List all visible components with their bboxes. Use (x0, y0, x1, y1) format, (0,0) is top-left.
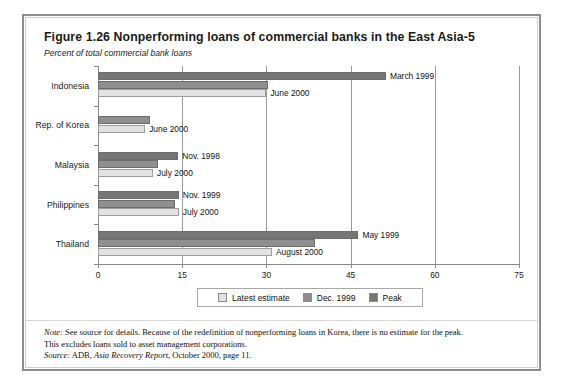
bar-annotation: May 1999 (362, 230, 399, 240)
y-band-tick (94, 185, 99, 186)
bar-rep-of-korea-dec (98, 116, 150, 124)
legend-label-latest: Latest estimate (232, 293, 290, 303)
x-tick-label-30: 30 (262, 270, 271, 280)
chart-legend: Latest estimate Dec. 1999 Peak (197, 288, 423, 307)
legend-item-dec-1999: Dec. 1999 (303, 293, 356, 303)
source-prefix: Source: (44, 350, 70, 360)
legend-label-dec-1999: Dec. 1999 (317, 293, 356, 303)
chart-plot-area: March 1999June 2000June 2000Nov. 1998Jul… (98, 66, 519, 264)
bar-annotation: June 2000 (270, 88, 309, 98)
note-text-1: See source for details. Because of the r… (63, 327, 463, 337)
bar-indonesia-latest (98, 89, 266, 97)
figure-subtitle: Percent of total commercial bank loans (44, 48, 192, 58)
category-label-thailand: Thailand (0, 239, 89, 249)
bar-annotation: March 1999 (390, 71, 434, 81)
bar-annotation: Nov. 1999 (183, 190, 221, 200)
source-text-a: ADB, (70, 350, 94, 360)
bar-annotation: June 2000 (149, 124, 188, 134)
legend-item-latest: Latest estimate (218, 293, 290, 303)
bar-annotation: July 2000 (183, 207, 219, 217)
x-tick-label-15: 15 (178, 270, 187, 280)
bar-indonesia-dec (98, 81, 268, 89)
bar-philippines-dec (98, 200, 175, 208)
x-tick-60 (435, 264, 436, 268)
bar-malaysia-peak (98, 152, 178, 160)
figure-title: Figure 1.26 Nonperforming loans of comme… (44, 30, 475, 44)
bar-thailand-latest (98, 248, 272, 256)
bar-indonesia-peak (98, 72, 386, 80)
legend-swatch-peak-icon (369, 293, 378, 302)
source-line: Source: ADB, Asia Recovery Report, Octob… (44, 350, 514, 362)
y-band-tick (94, 145, 99, 146)
x-tick-75 (519, 264, 520, 268)
note-prefix: Note: (44, 327, 63, 337)
bar-malaysia-latest (98, 169, 153, 177)
source-report-title: Asia Recovery Report (94, 350, 168, 360)
bar-rep-of-korea-latest (98, 125, 145, 133)
x-axis-line (98, 264, 519, 265)
y-band-tick (94, 106, 99, 107)
x-tick-15 (182, 264, 183, 268)
bar-philippines-latest (98, 208, 179, 216)
legend-label-peak: Peak (383, 293, 402, 303)
note-line-2: This excludes loans sold to asset manage… (44, 339, 514, 351)
legend-swatch-dec-1999-icon (303, 293, 312, 302)
category-label-philippines: Philippines (0, 200, 89, 210)
gridline-60 (435, 66, 436, 264)
bar-annotation: July 2000 (157, 168, 193, 178)
x-tick-45 (351, 264, 352, 268)
category-label-malaysia: Malaysia (0, 160, 89, 170)
source-text-b: , October 2000, page 11. (168, 350, 251, 360)
notes-divider (25, 320, 538, 321)
figure-notes: Note: See source for details. Because of… (44, 327, 514, 362)
gridline-75 (519, 66, 520, 264)
bar-thailand-peak (98, 231, 358, 239)
y-band-tick (94, 264, 99, 265)
legend-item-peak: Peak (369, 293, 402, 303)
bar-malaysia-dec (98, 160, 158, 168)
note-line-1: Note: See source for details. Because of… (44, 327, 514, 339)
bar-annotation: August 2000 (276, 247, 323, 257)
y-band-tick (94, 224, 99, 225)
x-tick-30 (266, 264, 267, 268)
x-tick-label-0: 0 (96, 270, 101, 280)
category-label-rep-of-korea: Rep. of Korea (0, 120, 89, 130)
category-label-indonesia: Indonesia (0, 81, 89, 91)
x-tick-label-60: 60 (430, 270, 439, 280)
x-tick-label-45: 45 (346, 270, 355, 280)
figure-page: Figure 1.26 Nonperforming loans of comme… (0, 0, 563, 387)
y-band-tick (94, 66, 99, 67)
legend-swatch-latest-icon (218, 293, 227, 302)
bar-philippines-peak (98, 191, 179, 199)
x-tick-label-75: 75 (514, 270, 523, 280)
bar-annotation: Nov. 1998 (182, 151, 220, 161)
